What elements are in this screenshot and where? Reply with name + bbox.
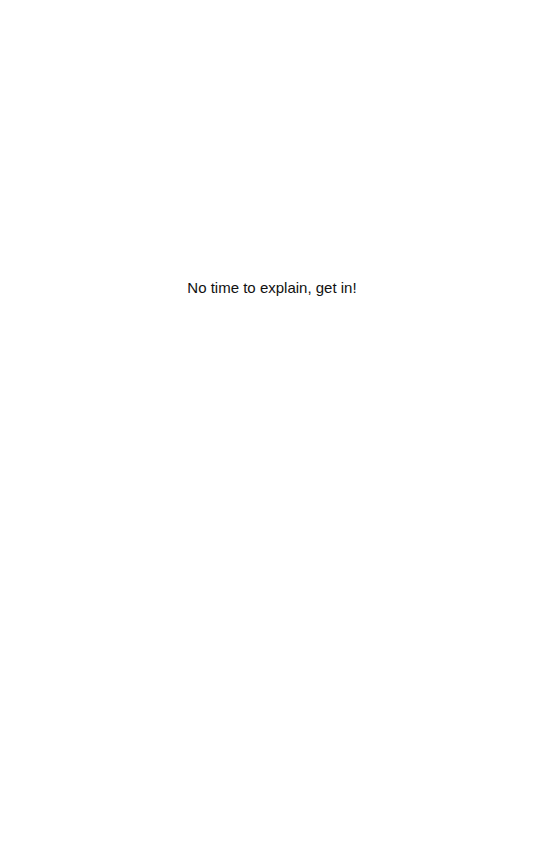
message-text: No time to explain, get in! bbox=[0, 279, 540, 297]
page: No time to explain, get in! bbox=[0, 0, 540, 864]
